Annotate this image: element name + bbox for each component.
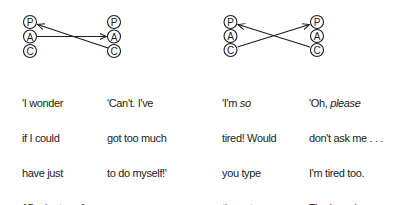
transaction-diagrams: P A C P A C P: [0, 0, 393, 70]
child-letter: C: [110, 46, 117, 57]
text-line: The boss has: [309, 203, 383, 205]
adult-ego-state: A: [108, 30, 121, 43]
parent-ego-state: P: [311, 16, 324, 29]
parent-letter: P: [227, 17, 234, 28]
child-letter: C: [227, 45, 234, 56]
parent-letter: P: [111, 17, 118, 28]
transaction-1-response-text: 'Can't. I've got too much to do myself!': [107, 75, 167, 191]
text-line: to do myself!': [107, 168, 167, 180]
child-ego-state: C: [24, 45, 37, 58]
transaction-2-stimulus-text: 'I'm so tired! Would you type these two …: [222, 75, 276, 205]
transaction-1-right-pac: P A C: [108, 16, 121, 58]
parent-ego-state: P: [224, 16, 237, 29]
text-line: I'm tired too.: [309, 168, 383, 180]
transaction-2-response-text: 'Oh, please don't ask me . . . I'm tired…: [309, 75, 383, 205]
parent-letter: P: [27, 17, 34, 28]
child-ego-state: C: [108, 45, 121, 58]
adult-letter: A: [111, 32, 118, 43]
text-line: tired! Would: [222, 133, 276, 145]
child-letter: C: [313, 45, 320, 56]
text-line: if I could: [22, 133, 84, 145]
parent-ego-state: P: [24, 16, 37, 29]
text-prefix: 'Oh,: [309, 97, 330, 109]
transaction-1-left-pac: P A C: [24, 16, 37, 58]
text-line: got too much: [107, 133, 167, 145]
text-line: 'I'm so: [222, 98, 276, 110]
child-ego-state: C: [224, 44, 237, 57]
parent-letter: P: [314, 17, 321, 28]
transaction-2-left-pac: P A C: [224, 16, 237, 57]
adult-letter: A: [27, 32, 34, 43]
text-line: 15 minutes of: [22, 203, 84, 205]
emphasized-word: so: [240, 97, 251, 109]
transaction-2-right-pac: P A C: [311, 16, 324, 57]
transaction-1-stimulus-text: 'I wonder if I could have just 15 minute…: [22, 75, 84, 205]
text-prefix: 'I'm: [222, 97, 240, 109]
child-ego-state: C: [311, 44, 324, 57]
emphasized-word: please: [330, 97, 360, 109]
child-letter: C: [26, 46, 33, 57]
text-line: 'Oh, please: [309, 98, 383, 110]
adult-ego-state: A: [224, 30, 237, 43]
text-line: you type: [222, 168, 276, 180]
text-line: 'I wonder: [22, 98, 84, 110]
adult-letter: A: [314, 31, 321, 42]
text-line: have just: [22, 168, 84, 180]
parent-ego-state: P: [108, 16, 121, 29]
text-line: 'Can't. I've: [107, 98, 167, 110]
text-line: don't ask me . . .: [309, 133, 383, 145]
adult-ego-state: A: [24, 30, 37, 43]
adult-letter: A: [227, 31, 234, 42]
text-line: these two: [222, 203, 276, 205]
adult-ego-state: A: [311, 30, 324, 43]
